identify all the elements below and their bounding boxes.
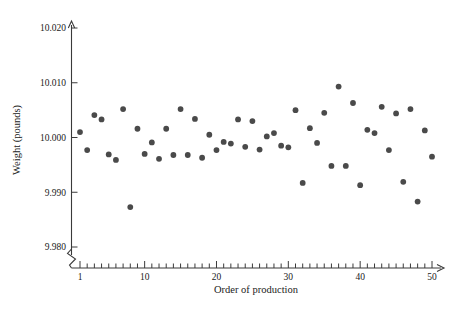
y-tick-group [72, 28, 78, 247]
y-tick-label: 10.000 [40, 133, 66, 143]
x-tick-label: 30 [284, 272, 294, 282]
x-tick-label: 40 [355, 272, 365, 282]
data-point [364, 127, 370, 133]
data-point [228, 141, 234, 147]
data-point [285, 144, 291, 150]
x-tick-label-group: 11020304050 [78, 272, 437, 282]
data-point [300, 180, 306, 186]
x-tick-label: 50 [427, 272, 437, 282]
data-point [91, 112, 97, 118]
data-point [415, 199, 421, 205]
data-point-layer [77, 84, 435, 210]
data-point [422, 127, 428, 133]
data-point [242, 144, 248, 150]
data-point [127, 204, 133, 210]
scatter-chart-figure: 10.02010.01010.0009.9909.980 11020304050… [0, 0, 462, 313]
y-tick-label-group: 10.02010.01010.0009.9909.980 [40, 23, 66, 252]
data-point [106, 152, 112, 158]
data-point [307, 125, 313, 131]
data-point [214, 147, 220, 153]
data-point [113, 157, 119, 163]
data-point [264, 134, 270, 140]
data-point [343, 163, 349, 169]
data-point [293, 107, 299, 113]
y-axis-title: Weight (pounds) [11, 104, 23, 175]
x-axis-title: Order of production [214, 284, 299, 295]
data-point [321, 110, 327, 116]
data-point [142, 151, 148, 157]
y-tick-label: 10.010 [40, 78, 66, 88]
x-tick-label: 1 [78, 272, 83, 282]
data-point [278, 143, 284, 149]
data-point [336, 84, 342, 90]
data-point [135, 126, 141, 132]
data-point [329, 163, 335, 169]
chart-canvas: 10.02010.01010.0009.9909.980 11020304050… [0, 0, 462, 313]
data-point [393, 111, 399, 117]
data-point [77, 129, 83, 135]
data-point [156, 156, 162, 162]
data-point [386, 147, 392, 153]
data-point [357, 182, 363, 188]
data-point [199, 155, 205, 161]
data-point [314, 140, 320, 146]
data-point [206, 132, 212, 138]
data-point [99, 117, 105, 123]
data-point [178, 106, 184, 112]
data-point [271, 130, 277, 136]
data-point [120, 106, 126, 112]
data-point [350, 100, 356, 106]
data-point [257, 147, 263, 153]
data-point [149, 140, 155, 146]
data-point [400, 179, 406, 185]
x-tick-label: 20 [212, 272, 222, 282]
y-tick-label: 9.980 [45, 242, 67, 252]
x-tick-label: 10 [140, 272, 150, 282]
data-point [408, 106, 414, 112]
data-point [372, 130, 378, 136]
data-point [192, 116, 198, 122]
y-tick-label: 10.020 [40, 23, 66, 33]
x-axis [72, 265, 445, 272]
data-point [235, 117, 241, 123]
data-point [84, 147, 90, 153]
data-point [185, 152, 191, 158]
x-tick-group [80, 261, 432, 268]
data-point [170, 152, 176, 158]
y-tick-label: 9.990 [45, 188, 67, 198]
data-point [250, 118, 256, 124]
data-point [379, 104, 385, 110]
data-point [429, 154, 435, 160]
data-point [221, 139, 227, 145]
data-point [163, 126, 169, 132]
